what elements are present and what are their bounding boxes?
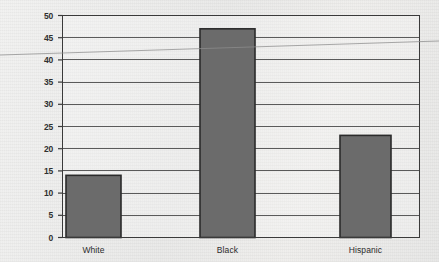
bar-black[interactable] (200, 29, 255, 238)
x-axis-labels: White Black Hispanic (82, 245, 382, 255)
bar-white[interactable] (66, 175, 121, 237)
y-tick-label: 45 (44, 33, 54, 43)
y-tick-label: 25 (44, 122, 54, 132)
y-tick-label: 20 (44, 144, 54, 154)
y-tick-label: 35 (44, 77, 54, 87)
y-tick-label: 10 (44, 188, 54, 198)
y-tick-label: 40 (44, 55, 54, 65)
x-tick-label-black: Black (217, 245, 239, 255)
chart-canvas: 50 45 40 35 30 25 20 15 10 5 0 White Bla… (0, 0, 439, 262)
y-tick-label: 30 (44, 99, 54, 109)
y-tick-label: 0 (48, 233, 53, 243)
y-axis-labels: 50 45 40 35 30 25 20 15 10 5 0 (44, 11, 54, 243)
y-tick-label: 15 (44, 166, 54, 176)
bar-hispanic[interactable] (340, 135, 391, 237)
x-tick-label-hispanic: Hispanic (349, 245, 383, 255)
x-tick-label-white: White (82, 245, 104, 255)
bar-chart: 50 45 40 35 30 25 20 15 10 5 0 White Bla… (0, 0, 439, 262)
y-tick-label: 5 (48, 210, 53, 220)
y-tick-label: 50 (44, 11, 54, 21)
